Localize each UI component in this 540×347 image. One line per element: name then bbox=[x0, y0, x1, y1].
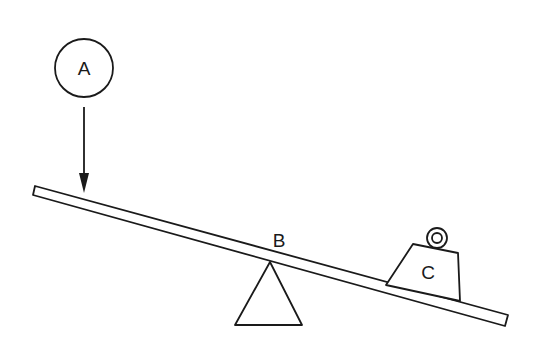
load-c: C bbox=[386, 228, 460, 301]
fulcrum-b-label: B bbox=[273, 230, 286, 251]
fulcrum-triangle bbox=[235, 262, 302, 325]
fulcrum-b: B bbox=[235, 230, 302, 325]
lever-diagram: A B C bbox=[0, 0, 540, 347]
load-c-label: C bbox=[421, 262, 435, 283]
force-a: A bbox=[55, 39, 113, 193]
force-a-label: A bbox=[78, 58, 91, 79]
arrow-down-icon bbox=[79, 173, 89, 193]
weight-ring-outer bbox=[427, 228, 447, 248]
